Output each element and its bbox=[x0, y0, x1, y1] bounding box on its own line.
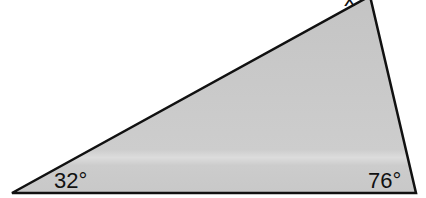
triangle-shape bbox=[12, 0, 416, 193]
angle-label-top: x bbox=[344, 0, 355, 11]
triangle-diagram: x 32° 76° bbox=[0, 0, 426, 198]
angle-label-bottom-right: 76° bbox=[368, 168, 401, 193]
angle-label-bottom-left: 32° bbox=[54, 168, 87, 193]
